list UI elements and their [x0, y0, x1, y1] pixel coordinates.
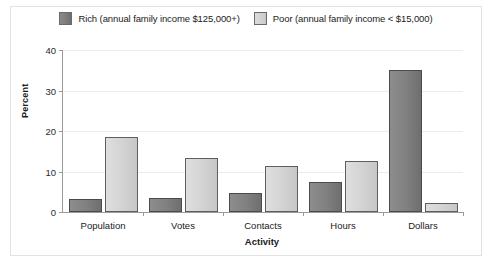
y-axis-tick — [59, 212, 63, 213]
bar — [69, 199, 102, 212]
y-axis-tick-label: 0 — [51, 207, 56, 218]
legend-label-poor: Poor (annual family income < $15,000) — [273, 13, 433, 24]
bar — [265, 166, 298, 212]
legend-label-rich: Rich (annual family income $125,000+) — [78, 13, 239, 24]
x-axis-tick — [463, 212, 464, 216]
y-axis-label: Percent — [20, 84, 30, 118]
y-axis-tick — [59, 50, 63, 51]
bar-group — [383, 70, 463, 212]
bar — [425, 203, 458, 212]
x-axis-tick — [143, 212, 144, 216]
plot-area: 010203040PopulationVotesContactsHoursDol… — [62, 50, 463, 213]
bar — [229, 193, 262, 212]
bar — [105, 137, 138, 212]
x-axis-tick — [223, 212, 224, 216]
x-axis-tick-label: Hours — [330, 220, 355, 231]
legend-entry-poor: Poor (annual family income < $15,000) — [254, 12, 433, 25]
x-axis-tick — [303, 212, 304, 216]
bar — [185, 158, 218, 212]
x-axis-tick-label: Votes — [171, 220, 195, 231]
x-axis-tick-label: Contacts — [244, 220, 282, 231]
x-axis-tick-label: Dollars — [408, 220, 438, 231]
x-axis-label: Activity — [62, 236, 462, 247]
bar — [309, 182, 342, 212]
y-axis-tick — [59, 131, 63, 132]
y-axis-tick-label: 30 — [45, 85, 56, 96]
y-axis-tick-label: 10 — [45, 166, 56, 177]
x-axis-tick-label: Population — [81, 220, 126, 231]
chart-screenshot: Rich (annual family income $125,000+) Po… — [0, 0, 492, 263]
bar-group — [303, 161, 383, 212]
y-axis-tick — [59, 91, 63, 92]
bar-group — [63, 137, 143, 212]
bar — [389, 70, 422, 212]
legend-swatch-poor-icon — [254, 12, 267, 25]
bar-group — [223, 166, 303, 212]
x-axis-tick — [383, 212, 384, 216]
y-axis-tick-label: 20 — [45, 126, 56, 137]
bar-group — [143, 158, 223, 212]
chart-legend: Rich (annual family income $125,000+) Po… — [0, 12, 492, 25]
bar — [345, 161, 378, 212]
bar — [149, 198, 182, 212]
y-axis-tick-label: 40 — [45, 45, 56, 56]
legend-swatch-rich-icon — [59, 12, 72, 25]
legend-entry-rich: Rich (annual family income $125,000+) — [59, 12, 239, 25]
gridline — [63, 50, 463, 51]
